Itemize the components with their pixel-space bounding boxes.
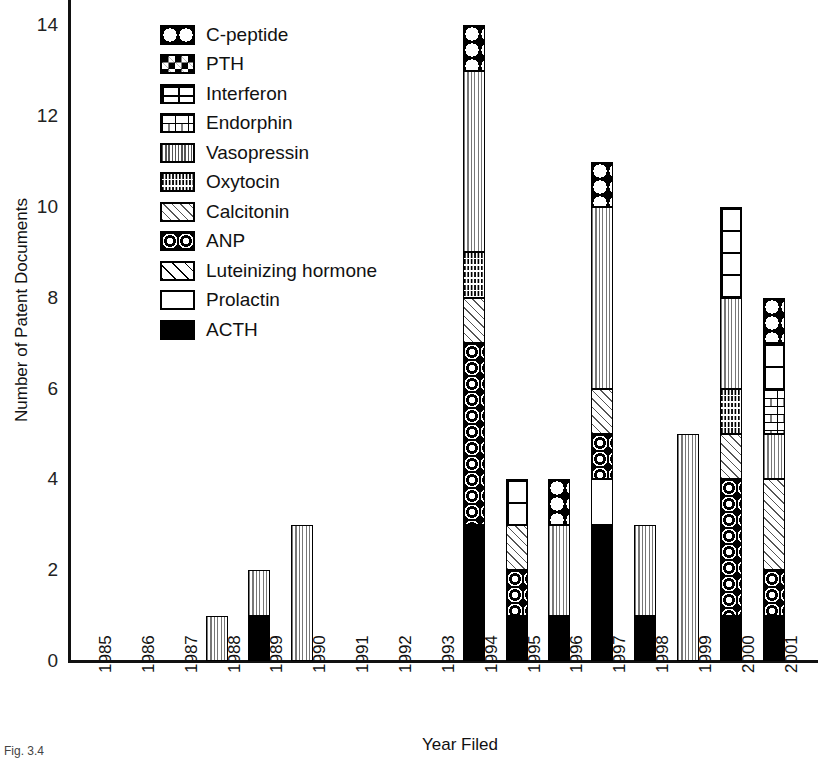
legend-item-label: Endorphin <box>206 112 293 134</box>
y-tick-label: 14 <box>18 15 58 34</box>
legend-item-label: PTH <box>206 53 244 75</box>
legend-swatch-anp-icon <box>160 231 195 251</box>
y-axis-title: Number of Patent Documents <box>12 180 32 440</box>
legend-item-acth[interactable]: ACTH <box>160 315 480 345</box>
bar-segment-interferon <box>720 207 742 298</box>
x-axis-title-label: Year Filed <box>422 735 498 754</box>
legend: C-peptidePTHInterferonEndorphinVasopress… <box>160 20 480 345</box>
x-tick-label: 2001 <box>782 635 802 673</box>
bar-segment-vasopressin <box>677 434 699 661</box>
bar-segment-vasopressin <box>634 525 656 616</box>
legend-item-anp[interactable]: ANP <box>160 227 480 257</box>
legend-item-vasopressin[interactable]: Vasopressin <box>160 138 480 168</box>
legend-swatch-fill <box>162 86 193 102</box>
legend-swatch-pth-icon <box>160 54 195 74</box>
bar-2000[interactable] <box>720 252 742 661</box>
bar-segment-calcitonin <box>591 389 613 434</box>
bar-segment-vasopressin <box>763 434 785 479</box>
bar-segment-vasopressin <box>548 525 570 616</box>
legend-item-prolactin[interactable]: Prolactin <box>160 286 480 316</box>
legend-item-label: Vasopressin <box>206 142 309 164</box>
x-tick-label: 1985 <box>96 635 116 673</box>
legend-swatch-fill <box>162 145 193 161</box>
bar-segment-calcitonin <box>763 479 785 570</box>
bar-segment-vasopressin <box>591 207 613 389</box>
bar-2001[interactable] <box>763 298 785 661</box>
legend-item-label: Interferon <box>206 83 287 105</box>
bar-segment-cpeptide <box>591 162 613 207</box>
bar-segment-anp <box>591 434 613 479</box>
y-tick-label: 4 <box>18 469 58 488</box>
legend-swatch-fill <box>162 233 193 249</box>
bar-segment-oxytocin <box>720 389 742 434</box>
figure-caption: Fig. 3.4 <box>4 744 44 758</box>
x-tick-label: 1999 <box>696 635 716 673</box>
x-tick-label: 1987 <box>182 635 202 673</box>
bar-1996[interactable] <box>548 479 570 661</box>
legend-item-label: Luteinizing hormone <box>206 260 377 282</box>
legend-swatch-prolactin-icon <box>160 290 195 310</box>
x-axis-title: Year Filed <box>0 735 820 755</box>
bar-1995[interactable] <box>506 479 528 661</box>
x-tick-label: 1993 <box>439 635 459 673</box>
x-tick-label: 1991 <box>353 635 373 673</box>
x-tick-label: 1990 <box>310 635 330 673</box>
bar-1997[interactable] <box>591 162 613 661</box>
bar-segment-vasopressin <box>720 298 742 389</box>
bar-segment-interferon <box>763 343 785 388</box>
legend-item-label: C-peptide <box>206 24 288 46</box>
bar-segment-interferon <box>506 479 528 524</box>
x-tick-label: 1995 <box>525 635 545 673</box>
legend-swatch-fill <box>162 27 193 43</box>
y-axis-line <box>68 0 71 663</box>
legend-swatch-fill <box>162 322 193 338</box>
x-tick-label: 2000 <box>739 635 759 673</box>
legend-swatch-vasopressin-icon <box>160 143 195 163</box>
legend-swatch-fill <box>162 56 193 72</box>
x-tick-label: 1998 <box>653 635 673 673</box>
bar-segment-anp <box>506 570 528 615</box>
y-tick-label: 2 <box>18 560 58 579</box>
x-tick-label: 1994 <box>482 635 502 673</box>
legend-swatch-lh-icon <box>160 261 195 281</box>
legend-item-label: Calcitonin <box>206 201 289 223</box>
bar-segment-endorphin <box>763 389 785 434</box>
legend-swatch-calcitonin-icon <box>160 202 195 222</box>
legend-swatch-cpeptide-icon <box>160 25 195 45</box>
bar-segment-anp <box>763 570 785 615</box>
x-tick-label: 1992 <box>396 635 416 673</box>
x-tick-label: 1989 <box>267 635 287 673</box>
legend-item-label: ANP <box>206 230 245 252</box>
legend-item-interferon[interactable]: Interferon <box>160 79 480 109</box>
x-tick-label: 1988 <box>225 635 245 673</box>
legend-item-lh[interactable]: Luteinizing hormone <box>160 256 480 286</box>
x-tick-label: 1996 <box>567 635 587 673</box>
legend-swatch-oxytocin-icon <box>160 172 195 192</box>
legend-swatch-acth-icon <box>160 320 195 340</box>
bar-segment-anp <box>463 343 485 525</box>
bar-1999[interactable] <box>677 434 699 661</box>
legend-swatch-fill <box>162 174 193 190</box>
bar-segment-vasopressin <box>248 570 270 615</box>
bar-segment-calcitonin <box>506 525 528 570</box>
y-tick-label: 12 <box>18 106 58 125</box>
legend-swatch-interferon-icon <box>160 84 195 104</box>
x-tick-label: 1997 <box>610 635 630 673</box>
legend-swatch-endorphin-icon <box>160 113 195 133</box>
bar-segment-cpeptide <box>763 298 785 343</box>
legend-item-calcitonin[interactable]: Calcitonin <box>160 197 480 227</box>
legend-item-endorphin[interactable]: Endorphin <box>160 109 480 139</box>
legend-swatch-fill <box>162 263 193 279</box>
legend-item-cpeptide[interactable]: C-peptide <box>160 20 480 50</box>
legend-swatch-fill <box>162 204 193 220</box>
legend-item-pth[interactable]: PTH <box>160 50 480 80</box>
legend-item-oxytocin[interactable]: Oxytocin <box>160 168 480 198</box>
legend-item-label: Oxytocin <box>206 171 280 193</box>
bar-segment-prolactin <box>591 479 613 524</box>
legend-swatch-fill <box>162 115 193 131</box>
legend-item-label: Prolactin <box>206 289 280 311</box>
legend-swatch-fill <box>162 292 193 308</box>
y-tick-label: 0 <box>18 651 58 670</box>
bar-segment-calcitonin <box>720 434 742 479</box>
legend-item-label: ACTH <box>206 319 258 341</box>
